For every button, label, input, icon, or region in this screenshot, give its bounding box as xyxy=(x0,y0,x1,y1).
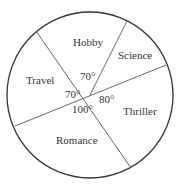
slice-label-science: Science xyxy=(118,49,152,61)
angle-label-travel: 70° xyxy=(65,88,80,100)
slice-label-thriller: Thriller xyxy=(123,105,157,117)
angle-label-hobby: 70° xyxy=(80,70,95,82)
angle-label-thriller: 80° xyxy=(99,93,114,105)
slice-label-hobby: Hobby xyxy=(73,36,103,48)
angle-label-romance: 100° xyxy=(72,103,93,115)
slice-label-travel: Travel xyxy=(26,74,54,86)
slice-label-romance: Romance xyxy=(56,134,98,146)
pie-chart: Hobby Science Travel Thriller Romance 70… xyxy=(0,0,179,188)
